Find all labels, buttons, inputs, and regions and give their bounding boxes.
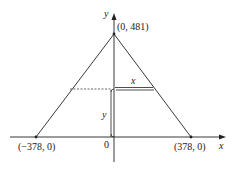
diagram-canvas: y x 0 (0, 481) (−378, 0) (378, 0) x y <box>0 0 239 173</box>
apex-point <box>113 33 116 36</box>
right-base-label: (378, 0) <box>174 141 206 153</box>
x-axis-arrow-icon <box>219 135 226 140</box>
triangle-right-side <box>114 34 191 137</box>
left-base-label: (−378, 0) <box>18 141 55 153</box>
x-axis-label: x <box>218 140 224 151</box>
origin-label: 0 <box>104 139 109 150</box>
right-base-point <box>190 136 193 139</box>
triangle-left-side <box>36 34 114 137</box>
y-axis-label: y <box>103 8 109 19</box>
rectangle-height-label: y <box>101 109 107 120</box>
rectangle-width-label: x <box>130 75 136 86</box>
apex-label: (0, 481) <box>117 21 149 33</box>
y-axis-arrow-icon <box>112 13 117 20</box>
left-base-point <box>35 136 38 139</box>
